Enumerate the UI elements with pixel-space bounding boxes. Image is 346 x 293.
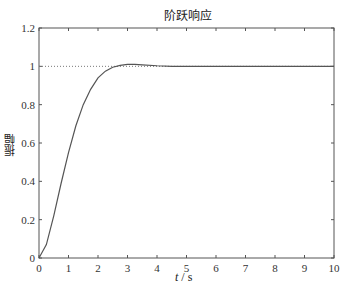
x-tick-label: 3 (125, 262, 131, 274)
axes-box (39, 28, 334, 258)
y-tick-label: 1 (30, 60, 36, 72)
response-curve (39, 64, 334, 258)
x-tick-label: 4 (154, 262, 160, 274)
y-tick-label: 1.2 (21, 22, 35, 34)
y-tick-label: 0.4 (21, 175, 35, 187)
x-tick-label: 0 (36, 262, 42, 274)
x-tick-label: 1 (66, 262, 72, 274)
y-tick-label: 0.6 (21, 137, 35, 149)
y-tick-label: 0.8 (21, 99, 35, 111)
x-tick-label: 9 (302, 262, 308, 274)
x-tick-label: 7 (243, 262, 249, 274)
plot-area: 01234567891000.20.40.60.811.2 (0, 0, 346, 293)
x-tick-label: 6 (213, 262, 219, 274)
x-tick-label: 8 (272, 262, 278, 274)
y-tick-label: 0.2 (21, 214, 35, 226)
x-tick-label: 2 (95, 262, 101, 274)
x-tick-label: 10 (329, 262, 341, 274)
y-tick-label: 0 (30, 252, 36, 264)
chart-figure: 阶跃响应 振幅 t / s 01234567891000.20.40.60.81… (0, 0, 346, 293)
x-tick-label: 5 (184, 262, 190, 274)
